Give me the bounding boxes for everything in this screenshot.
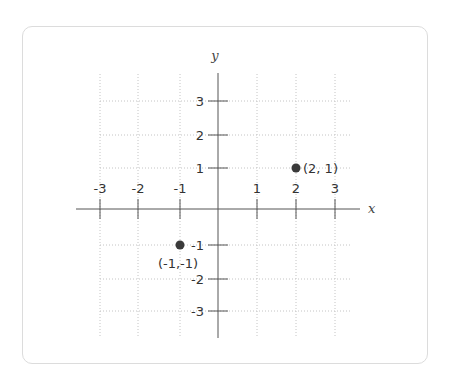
y-axis-label: y bbox=[210, 48, 219, 63]
axes bbox=[76, 73, 360, 338]
coordinate-plane: y x -3 -2 -1 1 2 3 3 2 1 -1 -2 -3 (2, 1)… bbox=[0, 0, 452, 385]
x-tick-label: 2 bbox=[292, 181, 300, 196]
y-tick-label: 3 bbox=[196, 94, 204, 109]
point-2-1 bbox=[292, 164, 301, 173]
y-tick-label: 1 bbox=[196, 161, 204, 176]
point-label: (2, 1) bbox=[303, 161, 338, 176]
y-tick-label: -1 bbox=[191, 238, 204, 253]
y-tick-label: -3 bbox=[191, 304, 204, 319]
x-tick-label: 1 bbox=[253, 181, 261, 196]
y-tick-label: -2 bbox=[191, 272, 204, 287]
x-tick-label: 3 bbox=[331, 181, 339, 196]
x-tick-label: -1 bbox=[174, 181, 187, 196]
x-tick-label: -2 bbox=[132, 181, 145, 196]
point-neg1-neg1 bbox=[176, 241, 185, 250]
y-tick-label: 2 bbox=[196, 128, 204, 143]
x-axis-label: x bbox=[368, 201, 376, 216]
x-tick-label: -3 bbox=[94, 181, 107, 196]
point-label: (-1,-1) bbox=[158, 256, 198, 271]
